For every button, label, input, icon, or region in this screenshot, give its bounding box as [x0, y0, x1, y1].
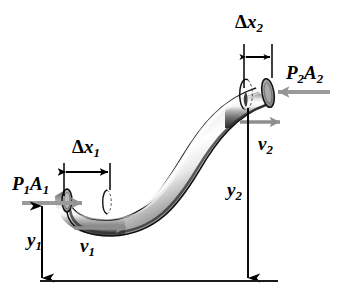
pressure-force-1-label: P1A1	[12, 174, 49, 197]
height-2-text: y2	[227, 179, 242, 200]
height-1-label: y1	[27, 230, 42, 253]
displacement-1-label: Δx1	[72, 137, 100, 160]
velocity-2-text: v2	[258, 133, 273, 154]
displacement-1-text: x1	[84, 136, 100, 157]
delta-symbol-1: Δ	[72, 136, 84, 157]
displacement-2-text: x2	[247, 11, 263, 32]
flow-pipe	[40, 75, 295, 250]
delta-symbol-2: Δ	[235, 11, 247, 32]
velocity-1-label: v1	[80, 236, 95, 259]
displacement-2-label: Δx2	[235, 12, 263, 35]
velocity-1-text: v1	[80, 235, 95, 256]
diagram-canvas	[0, 0, 350, 307]
height-1-text: y1	[27, 229, 42, 250]
velocity-2-label: v2	[258, 134, 273, 157]
pipe-inlet-bore	[64, 192, 70, 208]
height-2-label: y2	[227, 180, 242, 203]
pressure-force-1-text: P1A1	[12, 173, 49, 194]
pressure-force-2-text: P2A2	[286, 62, 323, 83]
bernoulli-flow-diagram: P1A1 P2A2 Δx1 Δx2 v1 v2 y1 y2	[0, 0, 350, 307]
pressure-force-2-label: P2A2	[286, 63, 323, 86]
inlet-fluid-slug-boundary-back	[107, 190, 111, 214]
displacement-1-dimension	[64, 163, 110, 196]
inlet-fluid-slug-boundary	[103, 190, 107, 214]
